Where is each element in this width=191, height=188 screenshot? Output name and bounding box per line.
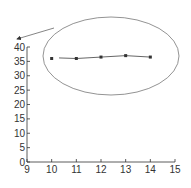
annotation-ellipse [43, 17, 179, 95]
y-tick-label: 5 [19, 142, 25, 153]
axes: 0510152025303540 9101112131415 [14, 42, 181, 176]
y-tick-label: 10 [14, 128, 26, 139]
y-tick-label: 40 [14, 42, 26, 53]
x-tick-label: 15 [169, 164, 181, 175]
y-tick-label: 20 [14, 99, 26, 110]
series [50, 54, 152, 60]
series-line [59, 56, 150, 59]
data-point-marker [50, 57, 53, 60]
annotations [17, 17, 179, 95]
data-point-marker [100, 56, 103, 59]
x-tick-label: 13 [120, 164, 132, 175]
annotation-arrow [17, 28, 54, 39]
data-point-marker [149, 56, 152, 59]
line-chart: 0510152025303540 9101112131415 [0, 0, 191, 188]
x-tick-label: 9 [24, 164, 30, 175]
x-tick-label: 11 [71, 164, 82, 175]
y-tick-label: 35 [14, 56, 26, 67]
x-tick-label: 10 [46, 164, 58, 175]
y-tick-label: 25 [14, 85, 26, 96]
y-tick-label: 15 [14, 113, 26, 124]
x-tick-label: 12 [95, 164, 107, 175]
y-tick-label: 30 [14, 70, 26, 81]
data-point-marker [75, 57, 78, 60]
y-ticks: 0510152025303540 [14, 42, 30, 168]
x-tick-label: 14 [145, 164, 157, 175]
data-point-marker [124, 54, 127, 57]
x-ticks: 9101112131415 [24, 159, 181, 175]
